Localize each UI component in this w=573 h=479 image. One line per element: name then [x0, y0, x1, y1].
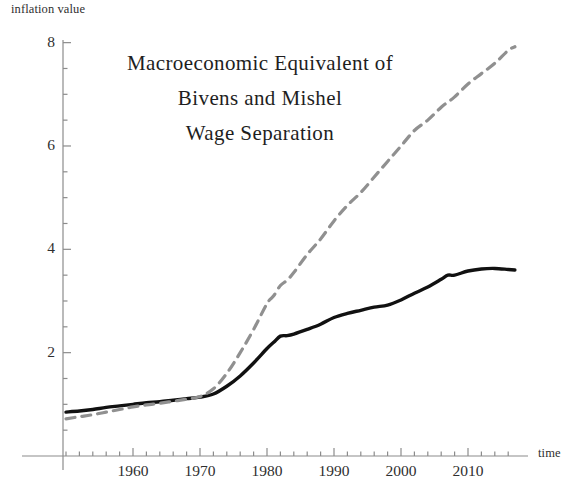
- plot-area: [0, 0, 573, 479]
- x-tick-label: 2010: [438, 462, 498, 479]
- x-tick-label: 1990: [304, 462, 364, 479]
- series-dashed-series: [66, 47, 515, 419]
- x-tick-label: 1980: [237, 462, 297, 479]
- y-tick-label: 8: [33, 33, 55, 51]
- axes-group: [22, 40, 528, 470]
- y-tick-label: 2: [33, 343, 55, 361]
- y-tick-label: 4: [33, 239, 55, 257]
- x-tick-label: 1970: [170, 462, 230, 479]
- y-tick-label: 6: [33, 136, 55, 154]
- x-tick-label: 1960: [103, 462, 163, 479]
- x-tick-label: 2000: [371, 462, 431, 479]
- series-group: [66, 47, 515, 419]
- series-solid-series: [66, 268, 515, 412]
- chart-figure: inflation value time Macroeconomic Equiv…: [0, 0, 573, 479]
